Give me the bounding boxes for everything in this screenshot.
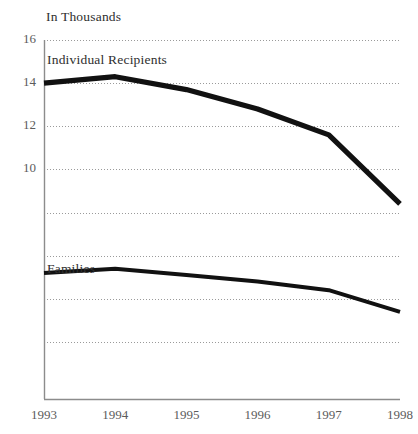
x-axis-tick-label: 1998 — [378, 407, 418, 423]
series-label-individual-recipients: Individual Recipients — [47, 52, 167, 68]
x-axis-tick-label: 1995 — [164, 407, 208, 423]
x-axis-tick-label: 1993 — [22, 407, 66, 423]
series-line-families — [44, 269, 400, 312]
x-axis-tick-label: 1994 — [93, 407, 137, 423]
series-label-families: Families — [47, 261, 95, 277]
y-axis-tick-label: 10 — [10, 160, 36, 176]
y-axis-tick-label: 16 — [10, 31, 36, 47]
x-axis-tick-label: 1996 — [236, 407, 280, 423]
chart-axis-caption: In Thousands — [46, 9, 121, 25]
y-axis-tick-label: 12 — [10, 117, 36, 133]
axes-group — [44, 40, 400, 400]
series-line-individual-recipients — [44, 77, 400, 204]
y-axis-tick-label: 14 — [10, 74, 36, 90]
chart-container: In Thousands Individual Recipients Famil… — [0, 0, 418, 434]
x-axis-tick-label: 1997 — [307, 407, 351, 423]
series-lines-group — [44, 77, 400, 312]
